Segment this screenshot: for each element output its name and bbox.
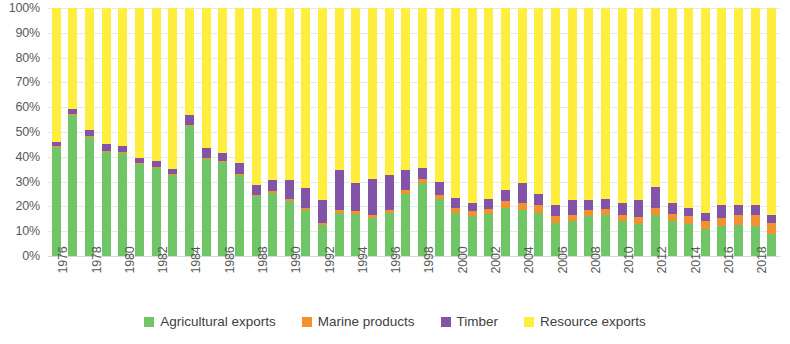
bar-segment[interactable] <box>301 188 310 208</box>
legend-item[interactable]: Resource exports <box>524 314 646 329</box>
bar[interactable] <box>301 8 310 256</box>
bar[interactable] <box>435 8 444 256</box>
bar[interactable] <box>734 8 743 256</box>
bar[interactable] <box>568 8 577 256</box>
bar-segment[interactable] <box>518 8 527 183</box>
bar-segment[interactable] <box>618 203 627 215</box>
bar-segment[interactable] <box>584 200 593 210</box>
bar[interactable] <box>185 8 194 256</box>
bar-segment[interactable] <box>767 215 776 222</box>
bar[interactable] <box>335 8 344 256</box>
bar-segment[interactable] <box>252 8 261 185</box>
bar-segment[interactable] <box>185 115 194 125</box>
bar-segment[interactable] <box>168 8 177 169</box>
bar-segment[interactable] <box>518 203 527 210</box>
bar[interactable] <box>684 8 693 256</box>
bar-segment[interactable] <box>734 8 743 205</box>
bar[interactable] <box>85 8 94 256</box>
bar-segment[interactable] <box>568 8 577 200</box>
bar-segment[interactable] <box>618 8 627 203</box>
bar-segment[interactable] <box>668 8 677 203</box>
bar[interactable] <box>634 8 643 256</box>
bar-segment[interactable] <box>401 8 410 170</box>
bar-segment[interactable] <box>418 168 427 179</box>
bar[interactable] <box>368 8 377 256</box>
bar-segment[interactable] <box>202 159 211 256</box>
bar-segment[interactable] <box>85 8 94 130</box>
bar-segment[interactable] <box>701 221 710 228</box>
bar-segment[interactable] <box>435 182 444 196</box>
bar-segment[interactable] <box>668 203 677 214</box>
bar-segment[interactable] <box>135 164 144 256</box>
bar-segment[interactable] <box>601 8 610 199</box>
bar-segment[interactable] <box>534 205 543 212</box>
bar-segment[interactable] <box>185 126 194 256</box>
bar-segment[interactable] <box>634 8 643 200</box>
bar[interactable] <box>385 8 394 256</box>
bar-segment[interactable] <box>68 115 77 256</box>
bar[interactable] <box>701 8 710 256</box>
bar-segment[interactable] <box>767 8 776 215</box>
bar-segment[interactable] <box>734 205 743 215</box>
bar-segment[interactable] <box>717 205 726 217</box>
bar[interactable] <box>418 8 427 256</box>
bar-segment[interactable] <box>102 8 111 144</box>
bar-segment[interactable] <box>634 200 643 217</box>
bar-segment[interactable] <box>767 223 776 234</box>
bar-segment[interactable] <box>551 205 560 216</box>
bar-segment[interactable] <box>684 208 693 217</box>
bar[interactable] <box>651 8 660 256</box>
bar-segment[interactable] <box>385 175 394 209</box>
bar[interactable] <box>68 8 77 256</box>
bar-segment[interactable] <box>168 175 177 256</box>
bar-segment[interactable] <box>701 213 710 222</box>
bar[interactable] <box>235 8 244 256</box>
bar-segment[interactable] <box>651 8 660 187</box>
bar-segment[interactable] <box>68 8 77 109</box>
legend-item[interactable]: Timber <box>441 314 499 329</box>
bar-segment[interactable] <box>734 215 743 225</box>
legend-item[interactable]: Marine products <box>302 314 415 329</box>
bar-segment[interactable] <box>152 168 161 256</box>
bar-segment[interactable] <box>268 8 277 180</box>
bar[interactable] <box>484 8 493 256</box>
bar-segment[interactable] <box>684 8 693 208</box>
bar[interactable] <box>202 8 211 256</box>
bar-segment[interactable] <box>335 8 344 170</box>
bar[interactable] <box>468 8 477 256</box>
bar-segment[interactable] <box>484 8 493 199</box>
bar-segment[interactable] <box>534 194 543 205</box>
bar-segment[interactable] <box>335 170 344 209</box>
bar[interactable] <box>401 8 410 256</box>
bar-segment[interactable] <box>717 218 726 227</box>
bar-segment[interactable] <box>418 183 427 256</box>
bar-segment[interactable] <box>118 153 127 256</box>
bar-segment[interactable] <box>717 8 726 205</box>
bar-segment[interactable] <box>152 8 161 161</box>
bar-segment[interactable] <box>684 216 693 223</box>
bar[interactable] <box>584 8 593 256</box>
bar[interactable] <box>318 8 327 256</box>
bar-segment[interactable] <box>368 179 377 214</box>
bar-segment[interactable] <box>185 8 194 115</box>
bar-segment[interactable] <box>751 205 760 215</box>
bar[interactable] <box>252 8 261 256</box>
bar-segment[interactable] <box>368 8 377 179</box>
bar-segment[interactable] <box>301 8 310 188</box>
bar[interactable] <box>118 8 127 256</box>
bar-segment[interactable] <box>701 8 710 213</box>
bar-segment[interactable] <box>601 199 610 209</box>
bar-segment[interactable] <box>52 8 61 142</box>
bar-segment[interactable] <box>518 183 527 203</box>
bar[interactable] <box>501 8 510 256</box>
bar[interactable] <box>518 8 527 256</box>
bar[interactable] <box>668 8 677 256</box>
bar-segment[interactable] <box>52 147 61 256</box>
bar-segment[interactable] <box>235 163 244 174</box>
bar-segment[interactable] <box>651 208 660 215</box>
bar-segment[interactable] <box>468 203 477 212</box>
bar-segment[interactable] <box>568 200 577 215</box>
bar[interactable] <box>551 8 560 256</box>
bar-segment[interactable] <box>252 185 261 195</box>
bar-segment[interactable] <box>285 180 294 199</box>
